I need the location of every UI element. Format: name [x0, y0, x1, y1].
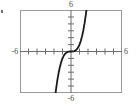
axis-label-top: 6 [64, 1, 78, 9]
edge-artifact-mark [1, 10, 3, 13]
plot-canvas [20, 10, 122, 93]
axis-label-bottom: -6 [64, 95, 78, 103]
axis-label-left: -6 [3, 48, 18, 56]
axis-label-right: 6 [124, 48, 136, 56]
graph-figure: 6 -6 -6 6 [0, 0, 138, 106]
